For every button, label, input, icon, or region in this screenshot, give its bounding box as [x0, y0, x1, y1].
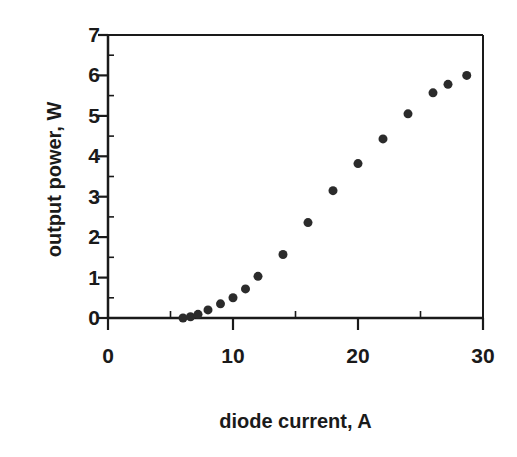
x-tick-label: 0 — [86, 345, 130, 366]
x-tick-label: 30 — [461, 345, 505, 366]
x-tick-label: 20 — [336, 345, 380, 366]
x-tick-label-group: 0 10 20 30 — [0, 0, 517, 457]
chart-figure: 7 6 5 4 3 2 1 0 0 10 20 30 output power,… — [0, 0, 517, 457]
x-axis-title: diode current, A — [108, 410, 483, 433]
x-tick-label: 10 — [211, 345, 255, 366]
y-axis-title: output power, W — [43, 50, 66, 310]
